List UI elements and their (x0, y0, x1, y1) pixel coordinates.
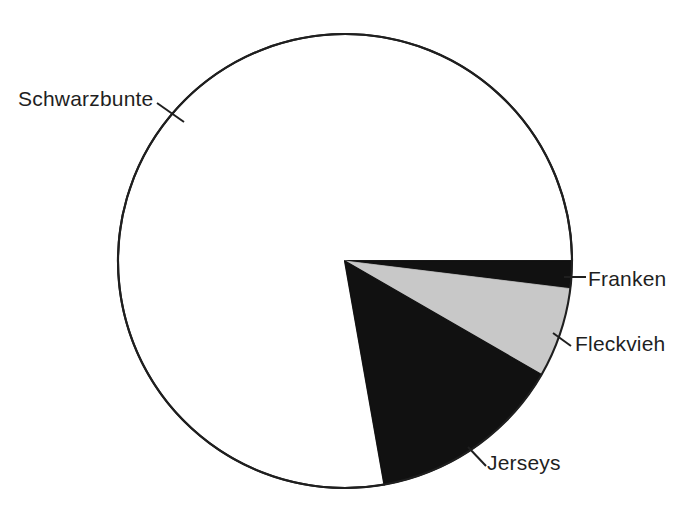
pie-chart-canvas (0, 0, 698, 517)
pie-chart-figure: Schwarzbunte Franken Fleckvieh Jerseys (0, 0, 698, 517)
leader-line-jerseys (468, 447, 486, 466)
pie-label-fleckvieh: Fleckvieh (575, 333, 666, 354)
pie-label-jerseys: Jerseys (487, 452, 561, 473)
pie-label-franken: Franken (588, 268, 666, 289)
pie-label-schwarzbunte: Schwarzbunte (18, 88, 153, 109)
